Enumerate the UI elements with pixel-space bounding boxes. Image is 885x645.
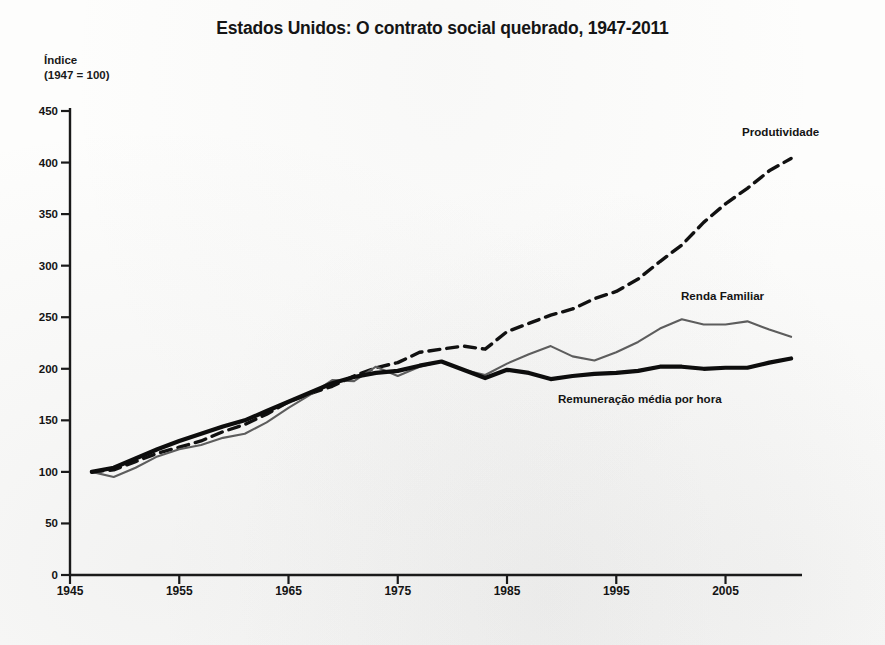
chart-figure: Estados Unidos: O contrato social quebra… xyxy=(0,0,885,645)
x-tick-label: 1965 xyxy=(259,584,319,598)
y-tick-label: 50 xyxy=(12,517,58,529)
y-tick-label: 150 xyxy=(12,414,58,426)
data-series-group xyxy=(92,158,791,477)
series-line-remunera-o-m-dia-por-hora xyxy=(92,358,791,471)
x-tick-label: 1975 xyxy=(368,584,428,598)
y-tick-label: 300 xyxy=(12,260,58,272)
y-tick-label: 400 xyxy=(12,157,58,169)
series-line-produtividade xyxy=(92,158,791,471)
x-tick-label: 1945 xyxy=(40,584,100,598)
series-label-produtividade: Produtividade xyxy=(742,125,819,138)
y-tick-marks xyxy=(61,111,70,575)
y-tick-label: 200 xyxy=(12,363,58,375)
x-tick-label: 1985 xyxy=(477,584,537,598)
y-tick-label: 100 xyxy=(12,466,58,478)
axes xyxy=(70,108,802,575)
x-tick-label: 2005 xyxy=(696,584,756,598)
series-label-remuneracao-media-por-hora: Remuneração média por hora xyxy=(558,392,722,405)
x-tick-marks xyxy=(70,575,726,584)
y-tick-label: 350 xyxy=(12,208,58,220)
plot-area xyxy=(0,0,885,645)
y-tick-label: 450 xyxy=(12,105,58,117)
y-tick-label: 250 xyxy=(12,311,58,323)
x-tick-label: 1995 xyxy=(586,584,646,598)
x-tick-label: 1955 xyxy=(149,584,209,598)
series-label-renda-familiar: Renda Familiar xyxy=(681,289,764,302)
y-tick-label: 0 xyxy=(12,569,58,581)
